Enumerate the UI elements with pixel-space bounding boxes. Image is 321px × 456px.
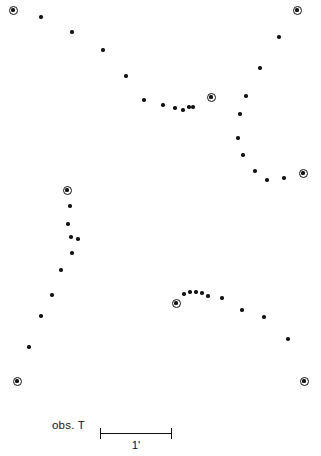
source-point-marker bbox=[142, 98, 145, 101]
scale-bar-label: 1' bbox=[100, 438, 172, 452]
source-point-marker bbox=[27, 345, 30, 348]
source-point-marker bbox=[69, 235, 72, 238]
source-point-marker bbox=[238, 112, 241, 115]
source-point-marker bbox=[188, 290, 191, 293]
source-point-marker bbox=[76, 237, 79, 240]
source-point-marker bbox=[124, 74, 127, 77]
source-point-marker bbox=[187, 105, 190, 108]
source-point-marker bbox=[277, 35, 280, 38]
source-point-marker bbox=[282, 176, 285, 179]
finding-chart: obs. T 1' bbox=[0, 0, 321, 456]
scale-bar-line bbox=[100, 433, 172, 434]
source-point-marker bbox=[39, 15, 42, 18]
source-point-marker bbox=[70, 30, 73, 33]
reference-object-marker bbox=[63, 186, 72, 195]
reference-object-marker bbox=[299, 169, 308, 178]
source-point-marker bbox=[70, 251, 73, 254]
source-point-marker bbox=[241, 153, 244, 156]
source-point-marker bbox=[253, 169, 256, 172]
source-point-marker bbox=[220, 296, 223, 299]
reference-object-marker bbox=[9, 6, 18, 15]
reference-object-marker bbox=[13, 377, 22, 386]
reference-object-marker bbox=[300, 377, 309, 386]
source-point-marker bbox=[39, 314, 42, 317]
observation-label: obs. T bbox=[52, 418, 85, 433]
source-point-marker bbox=[200, 291, 203, 294]
source-point-marker bbox=[262, 315, 265, 318]
source-point-marker bbox=[59, 268, 62, 271]
source-point-marker bbox=[265, 178, 268, 181]
source-point-marker bbox=[181, 108, 184, 111]
source-point-marker bbox=[206, 294, 209, 297]
source-point-marker bbox=[173, 106, 176, 109]
reference-object-marker bbox=[293, 6, 302, 15]
source-point-marker bbox=[258, 66, 261, 69]
source-point-marker bbox=[236, 136, 239, 139]
source-point-marker bbox=[194, 290, 197, 293]
source-point-marker bbox=[68, 204, 71, 207]
source-point-marker bbox=[101, 48, 104, 51]
source-point-marker bbox=[66, 222, 69, 225]
scale-legend: obs. T 1' bbox=[52, 418, 232, 454]
source-point-marker bbox=[161, 103, 164, 106]
source-point-marker bbox=[244, 94, 247, 97]
source-point-marker bbox=[240, 308, 243, 311]
plot-area bbox=[0, 0, 321, 456]
reference-object-marker bbox=[172, 299, 181, 308]
source-point-marker bbox=[286, 337, 289, 340]
reference-object-marker bbox=[207, 93, 216, 102]
source-point-marker bbox=[191, 105, 194, 108]
source-point-marker bbox=[182, 292, 185, 295]
source-point-marker bbox=[50, 293, 53, 296]
